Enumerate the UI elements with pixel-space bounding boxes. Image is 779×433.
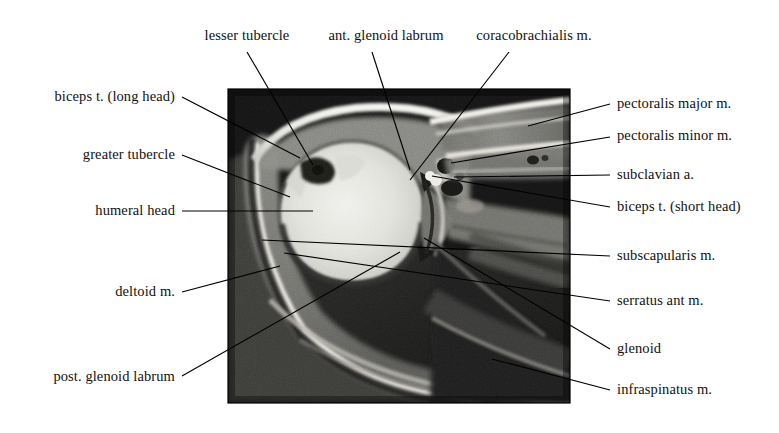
- label-lesser-tubercle[interactable]: lesser tubercle: [205, 27, 290, 43]
- label-pectoralis-major-m[interactable]: pectoralis major m.: [617, 95, 731, 111]
- label-biceps-t-short-head[interactable]: biceps t. (short head): [617, 198, 741, 215]
- label-post-glenoid-labrum[interactable]: post. glenoid labrum: [53, 368, 175, 384]
- label-subscapularis-m[interactable]: subscapularis m.: [617, 247, 715, 263]
- label-deltoid-m[interactable]: deltoid m.: [115, 283, 175, 299]
- label-greater-tubercle[interactable]: greater tubercle: [83, 146, 175, 162]
- label-biceps-t-long-head[interactable]: biceps t. (long head): [55, 88, 176, 105]
- annotation-layer: lesser tubercleant. glenoid labrumcoraco…: [0, 0, 779, 433]
- label-coracobrachialis-m[interactable]: coracobrachialis m.: [476, 27, 591, 43]
- label-ant-glenoid-labrum[interactable]: ant. glenoid labrum: [328, 27, 444, 43]
- label-serratus-ant-m[interactable]: serratus ant m.: [617, 292, 703, 308]
- label-humeral-head[interactable]: humeral head: [95, 202, 175, 218]
- label-pectoralis-minor-m[interactable]: pectoralis minor m.: [617, 127, 732, 143]
- label-infraspinatus-m[interactable]: infraspinatus m.: [617, 381, 712, 397]
- label-glenoid[interactable]: glenoid: [617, 340, 662, 356]
- label-subclavian-a[interactable]: subclavian a.: [617, 166, 694, 182]
- anatomy-figure: lesser tubercleant. glenoid labrumcoraco…: [0, 0, 779, 433]
